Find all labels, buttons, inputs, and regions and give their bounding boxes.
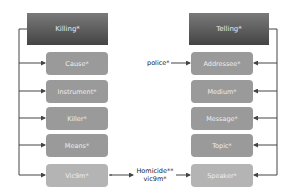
role-label: Medium* <box>207 88 236 96</box>
role-speaker: Speaker* <box>191 164 253 187</box>
role-cause: Cause* <box>46 52 108 75</box>
role-victim: Vic9m* <box>46 164 108 187</box>
role-killer: Killer* <box>46 107 108 130</box>
role-label: Vic9m* <box>65 172 88 180</box>
role-label: Topic* <box>212 142 232 150</box>
role-addressee: Addressee* <box>191 52 253 75</box>
role-label: Instrument* <box>57 88 96 96</box>
role-label: Means* <box>65 142 89 150</box>
role-message: Message* <box>191 107 253 130</box>
role-label: Killer* <box>67 115 87 123</box>
role-label: Cause* <box>65 60 88 68</box>
telling-label: Telling* <box>216 25 242 33</box>
killing-frame-header: Killing* <box>27 13 108 45</box>
role-medium: Medium* <box>191 80 253 103</box>
homicide-line2: vic9m* <box>134 175 176 183</box>
killing-label: Killing* <box>55 25 80 33</box>
role-label: Addressee* <box>203 60 240 68</box>
role-label: Message* <box>206 115 238 123</box>
role-label: Speaker* <box>207 172 237 180</box>
role-topic: Topic* <box>191 134 253 157</box>
role-instrument: Instrument* <box>46 80 108 103</box>
telling-frame-header: Telling* <box>189 13 269 45</box>
homicide-label: Homicide** vic9m* <box>134 167 176 183</box>
role-means: Means* <box>46 134 108 157</box>
police-label: police* <box>147 59 170 67</box>
homicide-line1: Homicide** <box>134 167 176 175</box>
